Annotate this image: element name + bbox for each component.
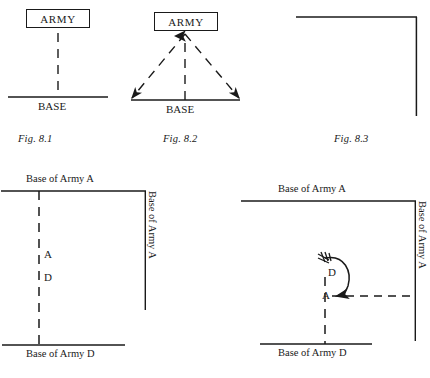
diagram-left-marker-a: A	[44, 249, 52, 260]
diagram-left-marker-d: D	[44, 272, 52, 283]
diagram-right-right-label: Base of Army A	[417, 201, 428, 269]
diagram-left-bottom-label: Base of Army D	[26, 349, 95, 360]
fig-8-1-base-label: BASE	[38, 101, 66, 112]
fig-8-2-dashed-line-right	[185, 34, 239, 98]
diagram-left-right-label: Base of Army A	[147, 191, 158, 259]
figure-vector-layer	[0, 0, 430, 378]
diagram-right-top-label: Base of Army A	[278, 184, 346, 195]
fig-8-1-graphic	[8, 33, 108, 97]
fig-8-2-caption: Fig. 8.2	[163, 134, 198, 145]
fig-8-1-caption: Fig. 8.1	[18, 134, 53, 145]
fig-8-3-caption: Fig. 8.3	[334, 134, 369, 145]
fig-8-3-graphic	[296, 17, 417, 116]
fig-8-2-dashed-line-left	[132, 34, 185, 98]
diagram-left-top-label: Base of Army A	[26, 174, 94, 185]
fig-8-1-army-box: ARMY	[26, 9, 90, 28]
fig-8-2-army-label: ARMY	[168, 16, 203, 28]
fig-8-2-graphic	[131, 34, 240, 100]
diagram-left-graphic	[1, 191, 146, 345]
diagram-right-marker-d: D	[328, 267, 336, 278]
diagram-right-marker-a: A	[322, 290, 330, 301]
diagram-right-bottom-label: Base of Army D	[278, 348, 347, 359]
fig-8-2-army-box: ARMY	[154, 12, 218, 31]
diagram-page: ARMY BASE Fig. 8.1 ARMY BASE Fig. 8.2 Fi…	[0, 0, 430, 378]
fig-8-2-base-label: BASE	[166, 104, 194, 115]
fig-8-1-army-label: ARMY	[40, 13, 75, 25]
